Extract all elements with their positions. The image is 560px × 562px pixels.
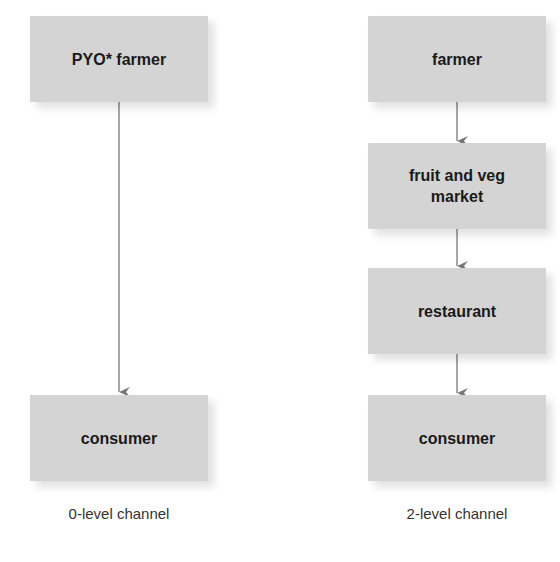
caption-two-level-channel: 2-level channel [357, 505, 557, 522]
node-pyo-farmer: PYO* farmer [30, 16, 208, 102]
node-label: fruit and veg market [409, 165, 505, 207]
node-label: consumer [419, 428, 495, 449]
caption-zero-level-channel: 0-level channel [19, 505, 219, 522]
node-consumer-zero-level: consumer [30, 395, 208, 481]
node-label: consumer [81, 428, 157, 449]
node-label: PYO* farmer [72, 49, 166, 70]
node-farmer: farmer [368, 16, 546, 102]
node-restaurant: restaurant [368, 268, 546, 354]
node-fruit-and-veg-market: fruit and veg market [368, 143, 546, 229]
node-label: farmer [432, 49, 482, 70]
node-label: restaurant [418, 301, 496, 322]
node-consumer-two-level: consumer [368, 395, 546, 481]
